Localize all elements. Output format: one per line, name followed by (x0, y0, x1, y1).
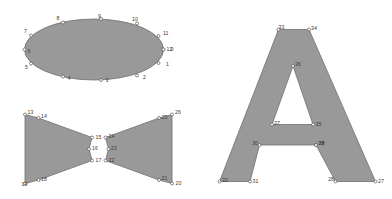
vertex-label-14: 14 (41, 113, 47, 119)
vertex-label-28: 28 (328, 176, 334, 182)
vertex-marker-1 (157, 62, 160, 65)
vertex-marker-4 (62, 75, 65, 78)
vertex-marker-5 (30, 62, 33, 65)
vertex-marker-15 (91, 136, 94, 139)
shape-letter-a (220, 30, 376, 182)
vertex-label-32: 32 (222, 177, 228, 183)
vertex-marker-38 (315, 144, 318, 147)
vertex-marker-13 (24, 113, 27, 116)
vertex-label-36: 36 (295, 61, 301, 67)
vertex-label-4: 4 (68, 75, 71, 81)
vertex-label-24: 24 (109, 133, 115, 139)
vertex-marker-10 (136, 22, 139, 25)
vertex-marker-30 (258, 144, 261, 147)
vertex-label-33: 33 (279, 24, 285, 30)
vertex-marker-27 (374, 180, 377, 183)
vertex-label-38: 38 (319, 140, 325, 146)
vertex-label-9: 9 (98, 13, 101, 19)
vertex-marker-21 (158, 179, 161, 182)
vertex-label-19: 19 (22, 181, 28, 187)
vertex-label-13: 13 (28, 109, 34, 115)
vertex-label-16: 16 (92, 145, 98, 151)
vertex-label-10: 10 (132, 16, 138, 22)
vertex-label-12: 12 (167, 46, 173, 52)
vertex-marker-6 (23, 48, 26, 51)
vertex-label-21: 21 (162, 175, 168, 181)
vertex-label-35: 35 (316, 121, 322, 127)
vertex-label-34: 34 (311, 25, 317, 31)
vertex-marker-32 (218, 180, 221, 183)
vertex-marker-23 (107, 148, 110, 151)
vertex-label-7: 7 (24, 28, 27, 34)
vertex-label-25: 25 (162, 114, 168, 120)
vertex-label-18: 18 (41, 176, 47, 182)
vertex-marker-20 (171, 182, 174, 185)
vertex-label-22: 22 (109, 157, 115, 163)
vertex-label-2: 2 (143, 74, 146, 80)
shape-bowtie-left (25, 115, 92, 184)
vertex-marker-11 (157, 35, 160, 38)
shapes-figure: 0123456789101112131415161718192021222324… (0, 0, 392, 199)
vertex-label-15: 15 (96, 134, 102, 140)
vertex-marker-14 (37, 117, 40, 120)
vertex-label-17: 17 (96, 157, 102, 163)
vertex-label-37: 37 (274, 120, 280, 126)
vertex-label-8: 8 (57, 15, 60, 21)
vertex-label-3: 3 (106, 77, 109, 83)
shape-fill-layer (25, 19, 376, 184)
vertex-marker-7 (30, 34, 33, 37)
vertex-marker-26 (171, 113, 174, 116)
vertex-label-30: 30 (252, 140, 258, 146)
shape-ellipse (25, 19, 164, 80)
vertex-marker-25 (158, 117, 161, 120)
vertex-label-23: 23 (111, 145, 117, 151)
vertex-marker-16 (88, 148, 91, 151)
vertex-marker-17 (91, 159, 94, 162)
vertex-marker-24 (104, 136, 107, 139)
vertex-label-27: 27 (378, 178, 384, 184)
vertex-label-26: 26 (175, 109, 181, 115)
vertex-marker-2 (136, 74, 139, 77)
vertex-marker-3 (100, 79, 103, 82)
vertex-marker-12 (162, 48, 165, 51)
vertex-marker-35 (312, 123, 315, 126)
vertex-label-5: 5 (25, 64, 28, 70)
vertex-label-6: 6 (28, 48, 31, 54)
vertex-label-11: 11 (163, 30, 168, 36)
vertex-label-1: 1 (166, 61, 169, 67)
vertex-label-20: 20 (176, 180, 182, 186)
vertex-marker-18 (37, 179, 40, 182)
vertex-marker-8 (62, 21, 65, 24)
vertex-marker-28 (334, 180, 337, 183)
vertex-label-31: 31 (253, 178, 259, 184)
figure-canvas: 0123456789101112131415161718192021222324… (0, 0, 392, 199)
vertex-marker-31 (249, 180, 252, 183)
vertex-marker-22 (104, 159, 107, 162)
